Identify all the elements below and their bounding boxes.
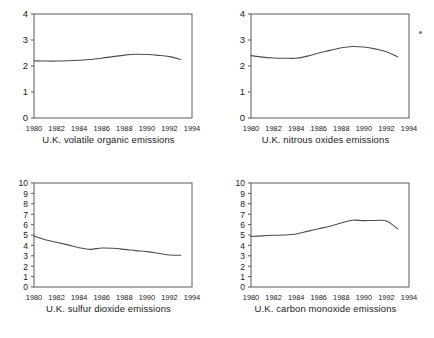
x-tick-label: 1992 — [378, 124, 394, 133]
y-tick-label: 2 — [240, 60, 245, 71]
x-tick-label: 1982 — [265, 293, 281, 302]
y-tick-label: 4 — [240, 241, 245, 251]
x-tick-label: 1984 — [71, 293, 87, 302]
data-series-line — [34, 54, 181, 61]
plot-frame — [251, 14, 409, 118]
x-tick-label: 1984 — [288, 124, 304, 133]
chart-caption-2: U.K. sulfur dioxide emissions — [0, 303, 217, 314]
y-tick-label: 4 — [23, 8, 28, 19]
y-tick-label: 0 — [23, 112, 28, 123]
y-tick-label: 0 — [240, 112, 245, 123]
x-tick-label: 1992 — [378, 293, 394, 302]
y-tick-label: 3 — [240, 251, 245, 261]
y-tick-label: 1 — [23, 86, 28, 97]
y-tick-label: 4 — [23, 241, 28, 251]
y-tick-label: 10 — [19, 178, 29, 188]
chart-panel-0: 0123419801982198419861988199019921994U.K… — [0, 0, 217, 169]
y-tick-label: 1 — [240, 86, 245, 97]
y-tick-label: 3 — [23, 34, 28, 45]
plot-area-0: 0123419801982198419861988199019921994 — [0, 0, 217, 135]
y-tick-label: 9 — [23, 189, 28, 199]
x-tick-label: 1988 — [116, 293, 132, 302]
chart-caption-0: U.K. volatile organic emissions — [0, 134, 217, 145]
x-tick-label: 1986 — [310, 293, 326, 302]
y-tick-label: 6 — [23, 220, 28, 230]
plot-area-2: 0123456789101980198219841986198819901992… — [0, 169, 217, 304]
figure-grid: 0123419801982198419861988199019921994U.K… — [0, 0, 434, 338]
x-axis: 19801982198419861988199019921994 — [26, 293, 200, 302]
x-tick-label: 1994 — [184, 293, 200, 302]
y-tick-label: 7 — [240, 210, 245, 220]
plot-area-1: 0123419801982198419861988199019921994 — [217, 0, 434, 135]
plot-frame — [34, 183, 192, 287]
chart-panel-3: 0123456789101980198219841986198819901992… — [217, 169, 434, 338]
y-tick-label: 3 — [23, 251, 28, 261]
x-tick-label: 1990 — [356, 124, 372, 133]
x-tick-label: 1988 — [116, 124, 132, 133]
y-tick-label: 1 — [240, 272, 245, 282]
y-axis: 012345678910 — [19, 178, 34, 292]
x-tick-label: 1992 — [161, 124, 177, 133]
y-tick-label: 2 — [23, 60, 28, 71]
x-tick-label: 1994 — [401, 293, 417, 302]
y-tick-label: 9 — [240, 189, 245, 199]
y-tick-label: 8 — [240, 199, 245, 209]
x-tick-label: 1992 — [161, 293, 177, 302]
x-tick-label: 1980 — [26, 124, 42, 133]
x-tick-label: 1986 — [93, 293, 109, 302]
y-tick-label: 7 — [23, 210, 28, 220]
x-tick-label: 1982 — [48, 293, 64, 302]
x-tick-label: 1982 — [265, 124, 281, 133]
x-tick-label: 1980 — [243, 293, 259, 302]
x-tick-label: 1986 — [310, 124, 326, 133]
x-tick-label: 1994 — [184, 124, 200, 133]
x-tick-label: 1982 — [48, 124, 64, 133]
line-chart-2: 0123456789101980198219841986198819901992… — [0, 169, 217, 304]
y-tick-label: 0 — [240, 282, 245, 292]
chart-panel-2: 0123456789101980198219841986198819901992… — [0, 169, 217, 338]
x-tick-label: 1986 — [93, 124, 109, 133]
x-tick-label: 1988 — [333, 124, 349, 133]
y-tick-label: 2 — [23, 262, 28, 272]
data-series-line — [251, 220, 398, 236]
y-tick-label: 8 — [23, 199, 28, 209]
x-axis: 19801982198419861988199019921994 — [26, 124, 200, 133]
y-axis: 012345678910 — [236, 178, 251, 292]
x-tick-label: 1990 — [139, 124, 155, 133]
x-tick-label: 1990 — [139, 293, 155, 302]
y-axis: 01234 — [23, 8, 34, 123]
x-tick-label: 1984 — [71, 124, 87, 133]
y-tick-label: 3 — [240, 34, 245, 45]
y-tick-label: 10 — [236, 178, 246, 188]
y-tick-label: 5 — [240, 230, 245, 240]
y-axis: 01234 — [240, 8, 251, 123]
x-axis: 19801982198419861988199019921994 — [243, 124, 417, 133]
y-tick-label: 5 — [23, 230, 28, 240]
line-chart-3: 0123456789101980198219841986198819901992… — [217, 169, 434, 304]
line-chart-0: 0123419801982198419861988199019921994 — [0, 0, 217, 135]
data-series-line — [34, 236, 181, 255]
x-tick-label: 1990 — [356, 293, 372, 302]
x-tick-label: 1994 — [401, 124, 417, 133]
x-axis: 19801982198419861988199019921994 — [243, 293, 417, 302]
y-tick-label: 6 — [240, 220, 245, 230]
line-chart-1: 0123419801982198419861988199019921994 — [217, 0, 434, 135]
y-tick-label: 4 — [240, 8, 245, 19]
plot-area-3: 0123456789101980198219841986198819901992… — [217, 169, 434, 304]
x-tick-label: 1984 — [288, 293, 304, 302]
chart-caption-1: U.K. nitrous oxides emissions — [217, 134, 434, 145]
x-tick-label: 1988 — [333, 293, 349, 302]
data-series-line — [251, 46, 398, 58]
y-tick-label: 2 — [240, 262, 245, 272]
chart-panel-1: 0123419801982198419861988199019921994U.K… — [217, 0, 434, 169]
scan-speck-artifact — [419, 31, 422, 34]
plot-frame — [34, 14, 192, 118]
x-tick-label: 1980 — [26, 293, 42, 302]
y-tick-label: 0 — [23, 282, 28, 292]
x-tick-label: 1980 — [243, 124, 259, 133]
y-tick-label: 1 — [23, 272, 28, 282]
chart-caption-3: U.K. carbon monoxide emissions — [217, 303, 434, 314]
